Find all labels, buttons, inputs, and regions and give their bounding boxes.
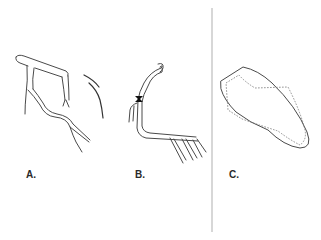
panel-c-ventricle-drawing (221, 67, 309, 148)
panel-a-lower-vessel-b (33, 89, 90, 140)
panel-a-left-branch-outer (25, 66, 27, 114)
panel-a-lower-vessel-a (28, 90, 89, 142)
panel-b-vessel-inner (142, 68, 196, 138)
panel-a-side-vessel-lower (89, 83, 103, 118)
panel-b-stenosis (135, 96, 143, 102)
panel-a-label: A. (26, 169, 36, 180)
figure-canvas: A. B. C. (0, 0, 321, 240)
panel-a-top-vessel-upper (16, 55, 68, 76)
panel-a-right-branch (62, 76, 69, 107)
figure-svg (0, 0, 321, 240)
panel-c-outer-contour (221, 67, 309, 148)
panel-b-label: B. (135, 169, 145, 180)
panel-c-inner-contour (226, 75, 305, 145)
panel-b-side-branch (129, 103, 137, 122)
panel-b-artery-drawing (129, 64, 206, 164)
panel-a-artery-drawing (16, 55, 103, 152)
panel-b-vessel-outer (137, 66, 198, 141)
panel-c-label: C. (229, 169, 239, 180)
panel-a-left-branch-inner (33, 68, 34, 89)
